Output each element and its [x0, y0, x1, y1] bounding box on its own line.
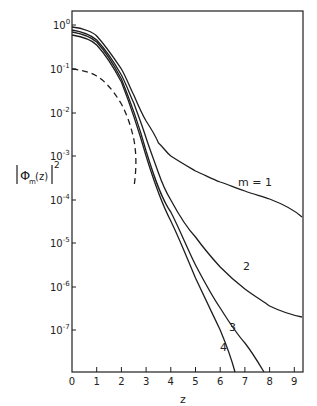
svg-text:2: 2: [54, 160, 60, 170]
svg-text:100: 100: [53, 18, 70, 31]
svg-text:10-1: 10-1: [50, 62, 70, 75]
svg-text:1: 1: [94, 376, 100, 387]
svg-text:7: 7: [242, 376, 248, 387]
x-axis: [97, 367, 295, 372]
label-m2: 2: [243, 260, 250, 273]
svg-text:2: 2: [118, 376, 124, 387]
chart: 100 10-1 10-2 10-3 10-4 10-5 10-6 10-7 0…: [0, 0, 317, 406]
svg-text:6: 6: [217, 376, 223, 387]
x-tick-labels: 0 1 2 3 4 5 6 7 8 9: [69, 376, 298, 387]
svg-text:3: 3: [143, 376, 149, 387]
y-tick-labels: 100 10-1 10-2 10-3 10-4 10-5 10-6 10-7: [50, 18, 70, 336]
svg-text:(z): (z): [35, 171, 48, 182]
svg-text:10-2: 10-2: [50, 106, 70, 119]
svg-text:5: 5: [192, 376, 198, 387]
svg-text:9: 9: [291, 376, 297, 387]
svg-text:8: 8: [266, 376, 272, 387]
label-m4: 4: [220, 341, 227, 354]
y-axis-label: Φ m (z) 2: [17, 160, 60, 186]
svg-text:10-5: 10-5: [50, 236, 70, 249]
svg-text:0: 0: [69, 376, 75, 387]
x-axis-label: z: [180, 393, 186, 406]
svg-text:10-6: 10-6: [50, 280, 70, 293]
label-m1: m = 1: [238, 176, 272, 189]
svg-text:10-3: 10-3: [50, 149, 70, 162]
plot-frame: [72, 11, 303, 372]
curve-m2: [72, 30, 302, 317]
curve-m4: [72, 35, 235, 372]
svg-text:10-4: 10-4: [50, 193, 70, 206]
label-m3: 3: [229, 321, 236, 334]
svg-text:4: 4: [168, 376, 174, 387]
svg-text:10-7: 10-7: [50, 323, 70, 336]
